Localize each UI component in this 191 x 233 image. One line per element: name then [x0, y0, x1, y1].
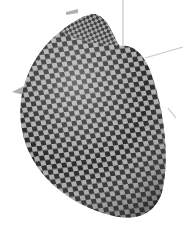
- checkered-surface: [0, 0, 191, 233]
- surface-render: [0, 0, 191, 233]
- right-axis: [145, 47, 183, 58]
- lower-right-axis: [168, 108, 176, 118]
- top-axis-arrow-icon: [66, 9, 78, 15]
- render-canvas: [0, 0, 191, 233]
